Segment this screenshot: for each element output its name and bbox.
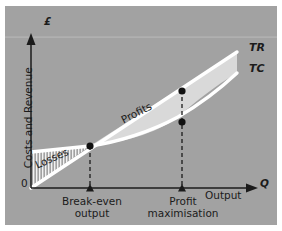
- origin-label: 0: [21, 178, 28, 190]
- total-cost-label: TC: [249, 63, 265, 75]
- figure-container: £ Costs and Revenue 0 Q Output TR TC Los…: [0, 0, 282, 231]
- top-rule: [5, 37, 277, 38]
- profit-max-tick-label-line1: Profit: [144, 196, 222, 208]
- x-axis-symbol: Q: [260, 178, 269, 190]
- y-axis-arrowhead: [27, 33, 36, 45]
- total-revenue-label: TR: [249, 42, 265, 54]
- break-even-tick-label-line2: output: [55, 208, 129, 220]
- y-axis-unit-symbol: £: [44, 16, 51, 27]
- profit-max-cost-point: [178, 118, 185, 125]
- x-axis-arrowhead: [246, 184, 258, 193]
- y-axis-label: Costs and Revenue: [23, 67, 35, 168]
- break-even-point: [86, 142, 93, 149]
- break-even-tick-label: Break-even output: [55, 196, 129, 220]
- profit-max-tick-label-line2: maximisation: [144, 208, 222, 220]
- profit-max-tick-label: Profit maximisation: [144, 196, 222, 220]
- profit-max-revenue-point: [178, 87, 185, 94]
- break-even-tick-label-line1: Break-even: [55, 196, 129, 208]
